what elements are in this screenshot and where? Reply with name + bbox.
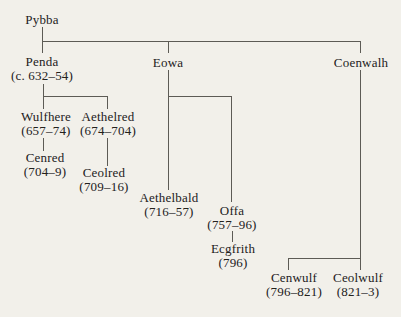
node-offa: Offa (757–96) — [207, 204, 256, 232]
line-cenwulf-tick — [288, 258, 289, 270]
person-dates: (c. 632–54) — [11, 69, 73, 83]
line-cenwulf-horizontal — [288, 258, 361, 259]
line-aethelred-tick — [107, 96, 108, 109]
node-ceolred: Ceolred (709–16) — [79, 166, 128, 194]
line-pybba-stem — [42, 27, 43, 53]
person-dates: (821–3) — [333, 285, 383, 299]
person-dates: (757–96) — [207, 218, 256, 232]
family-tree-canvas: Pybba Penda (c. 632–54) Eowa Coenwalh Wu… — [0, 0, 401, 317]
person-name: Aethelbald — [139, 191, 198, 205]
node-cenwulf: Cenwulf (796–821) — [266, 271, 322, 299]
line-coenwalh-stem — [360, 70, 361, 270]
person-name: Ceolred — [79, 166, 128, 180]
line-coenwalh-tick — [360, 41, 361, 53]
person-dates: (716–57) — [139, 205, 198, 219]
node-cenred: Cenred (704–9) — [24, 151, 67, 179]
node-coenwalh: Coenwalh — [334, 56, 388, 70]
person-name: Penda — [11, 55, 73, 69]
person-name: Aethelred — [80, 110, 136, 124]
line-aethelred-to-ceolred — [107, 138, 108, 166]
line-branch-to-offa — [231, 96, 232, 202]
line-eowa-to-aethelbald — [168, 70, 169, 190]
person-dates: (796–821) — [266, 285, 322, 299]
person-name: Eowa — [153, 56, 183, 70]
person-name: Pybba — [25, 13, 59, 27]
node-aethelred: Aethelred (674–704) — [80, 110, 136, 138]
person-name: Ceolwulf — [333, 271, 383, 285]
person-dates: (674–704) — [80, 124, 136, 138]
line-eowa-tick — [168, 41, 169, 53]
line-gen1-horizontal — [42, 41, 361, 42]
node-penda: Penda (c. 632–54) — [11, 55, 73, 83]
node-pybba: Pybba — [25, 13, 59, 27]
node-ceolwulf: Ceolwulf (821–3) — [333, 271, 383, 299]
person-name: Coenwalh — [334, 56, 388, 70]
person-dates: (796) — [211, 256, 255, 270]
line-eowa-branch-horizontal — [168, 96, 232, 97]
node-eowa: Eowa — [153, 56, 183, 70]
node-aethelbald: Aethelbald (716–57) — [139, 191, 198, 219]
person-name: Cenred — [24, 151, 67, 165]
node-ecgfrith: Ecgfrith (796) — [211, 242, 255, 270]
person-dates: (657–74) — [21, 124, 71, 138]
person-name: Wulfhere — [21, 110, 71, 124]
line-penda-children-horizontal — [43, 96, 108, 97]
person-name: Ecgfrith — [211, 242, 255, 256]
node-wulfhere: Wulfhere (657–74) — [21, 110, 71, 138]
person-name: Offa — [207, 204, 256, 218]
person-name: Cenwulf — [266, 271, 322, 285]
person-dates: (709–16) — [79, 180, 128, 194]
person-dates: (704–9) — [24, 165, 67, 179]
